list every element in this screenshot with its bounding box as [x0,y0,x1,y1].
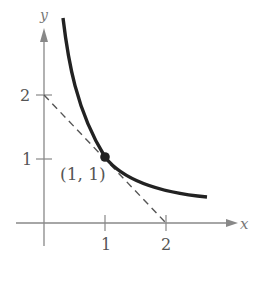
y-axis-label: y [39,7,49,23]
xtick-label-1: 1 [101,235,111,254]
ticks [36,95,166,231]
axes [16,28,238,246]
ytick-label-2: 2 [20,86,30,105]
xtick-label-2: 2 [161,235,171,254]
y-axis-arrow-icon [40,28,48,42]
point-marker [100,152,110,162]
point-label: (1, 1) [60,164,106,184]
chart: (1, 1) 1 2 1 2 x y [0,0,255,285]
x-axis-arrow-icon [226,219,238,227]
x-axis-label: x [240,215,249,233]
ytick-label-1: 1 [22,150,32,169]
